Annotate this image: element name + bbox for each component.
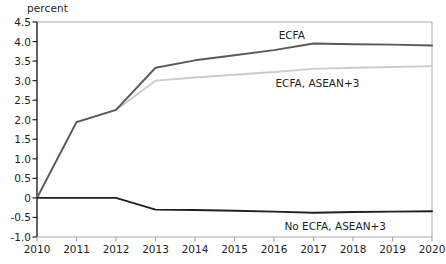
x-axis-ticks (37, 237, 432, 242)
y-tick-label: 3.5 (1, 55, 31, 67)
y-tick-label: 4.0 (1, 36, 31, 48)
series-label-no-ecfa-asean-3: No ECFA, ASEAN+3 (284, 220, 386, 232)
plot-frame (37, 22, 432, 237)
y-axis-title: percent (27, 2, 68, 14)
y-axis-tick-labels: 4.54.03.53.02.52.01.51.00.50-0.5-1.0 (0, 0, 31, 264)
x-tick-label: 2018 (340, 243, 367, 255)
y-tick-label: 2.0 (1, 114, 31, 126)
x-tick-label: 2016 (261, 243, 288, 255)
y-tick-label: 1.5 (1, 133, 31, 145)
chart-container: percent 4.54.03.53.02.52.01.51.00.50-0.5… (0, 0, 446, 264)
x-tick-label: 2020 (419, 243, 446, 255)
y-tick-label: 2.5 (1, 94, 31, 106)
x-tick-label: 2014 (182, 243, 209, 255)
x-tick-label: 2019 (379, 243, 406, 255)
y-tick-label: 4.5 (1, 16, 31, 28)
y-tick-label: 1.0 (1, 153, 31, 165)
series-label-ecfa: ECFA (279, 29, 305, 41)
y-tick-label: 0 (1, 192, 31, 204)
data-series-layer (37, 44, 432, 213)
y-tick-label: -0.5 (1, 211, 31, 223)
y-tick-label: 3.0 (1, 75, 31, 87)
x-tick-label: 2011 (63, 243, 90, 255)
series-label-ecfa-asean-3: ECFA, ASEAN+3 (275, 77, 359, 89)
x-tick-label: 2010 (24, 243, 51, 255)
x-tick-label: 2012 (103, 243, 130, 255)
x-tick-label: 2017 (300, 243, 327, 255)
x-tick-label: 2013 (142, 243, 169, 255)
y-tick-label: -1.0 (1, 231, 31, 243)
y-tick-label: 0.5 (1, 172, 31, 184)
x-tick-label: 2015 (221, 243, 248, 255)
